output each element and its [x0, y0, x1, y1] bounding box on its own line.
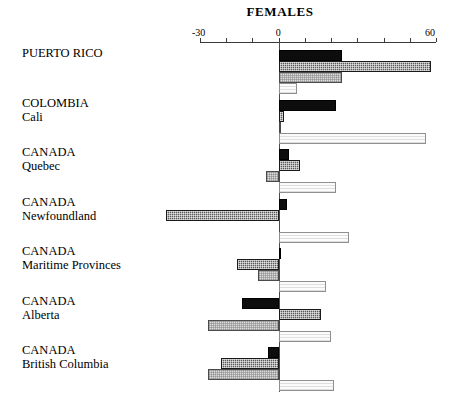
bar-black	[279, 50, 342, 61]
bar-white	[279, 281, 326, 292]
bar-black	[279, 149, 289, 160]
bar-white	[279, 182, 337, 193]
bar-group	[200, 149, 436, 193]
bar-light-hatched	[266, 171, 279, 182]
category-label-line1: PUERTO RICO	[22, 46, 103, 60]
bar-black	[268, 347, 278, 358]
category-label-line2: Maritime Provinces	[22, 258, 197, 272]
x-axis-tick	[410, 38, 411, 42]
bar-dark-hatched	[279, 61, 431, 72]
category-label: CANADABritish Columbia	[22, 343, 197, 371]
bar-group	[200, 298, 436, 342]
category-label: CANADAQuebec	[22, 145, 197, 173]
bar-group	[200, 100, 436, 144]
bar-light-hatched	[208, 369, 279, 380]
bar-white	[279, 133, 426, 144]
bar-black	[279, 100, 337, 111]
category-label-line2: Alberta	[22, 308, 197, 322]
plot-area	[200, 42, 436, 392]
bar-dark-hatched	[279, 309, 321, 320]
x-axis-tick	[226, 38, 227, 42]
category-label-line2: Cali	[22, 110, 197, 124]
bar-group	[200, 347, 436, 391]
category-label-line1: CANADA	[22, 195, 75, 209]
category-label-line1: CANADA	[22, 294, 75, 308]
bar-white	[279, 232, 350, 243]
axis-tick-label-min: -30	[192, 27, 205, 38]
chart-title: FEMALES	[180, 4, 380, 20]
axis-tick-label-zero: 0	[276, 27, 281, 38]
bar-black	[279, 199, 287, 210]
bar-dark-hatched	[221, 358, 279, 369]
category-label-line1: CANADA	[22, 145, 75, 159]
category-label-line1: CANADA	[22, 343, 75, 357]
bar-dark-hatched	[166, 210, 279, 221]
bar-black	[279, 248, 282, 259]
bar-white	[279, 331, 331, 342]
x-axis-tick	[252, 38, 253, 42]
bar-black	[242, 298, 279, 309]
bar-dark-hatched	[279, 111, 284, 122]
x-axis-tick	[305, 38, 306, 42]
bar-dark-hatched	[279, 160, 300, 171]
bar-group	[200, 199, 436, 243]
bar-white	[279, 83, 297, 94]
x-axis-tick	[436, 38, 437, 42]
category-label-line1: CANADA	[22, 244, 75, 258]
category-label: CANADAMaritime Provinces	[22, 244, 197, 272]
x-axis-line	[200, 42, 436, 43]
x-axis-tick	[331, 38, 332, 42]
bar-light-hatched	[279, 72, 342, 83]
category-label-line2: Quebec	[22, 159, 197, 173]
bar-dark-hatched	[237, 259, 279, 270]
x-axis-tick	[200, 38, 201, 42]
bar-light-hatched	[258, 270, 279, 281]
bar-white	[279, 380, 334, 391]
bar-group	[200, 248, 436, 292]
bar-light-hatched	[208, 320, 279, 331]
category-label: COLOMBIACali	[22, 96, 197, 124]
chart-page: FEMALES -30 0 60 PUERTO RICOCOLOMBIACali…	[0, 0, 451, 414]
x-axis-tick	[357, 38, 358, 42]
category-label: CANADAAlberta	[22, 294, 197, 322]
bar-group	[200, 50, 436, 94]
category-label-line1: COLOMBIA	[22, 96, 89, 110]
x-axis-tick	[384, 38, 385, 42]
bar-light-hatched	[279, 122, 282, 133]
category-label-line2: British Columbia	[22, 357, 197, 371]
category-label: PUERTO RICO	[22, 46, 197, 60]
axis-tick-label-max: 60	[425, 27, 435, 38]
